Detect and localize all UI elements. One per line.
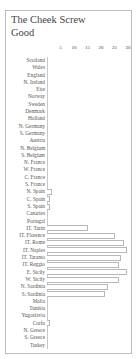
chart-row: S. Greece xyxy=(0,334,136,341)
category-label: S. France xyxy=(25,181,45,188)
x-tick-label: 10 xyxy=(72,44,77,51)
chart-row: Tunisia xyxy=(0,305,136,312)
chart-row: Canaries xyxy=(0,210,136,217)
chart-row: Austria xyxy=(0,137,136,144)
category-label: C. Spain xyxy=(27,196,45,203)
chart-row: N. Belgium xyxy=(0,145,136,152)
chart-row: E. Sicily xyxy=(0,269,136,276)
chart-row: Sweden xyxy=(0,101,136,108)
bar xyxy=(47,262,119,268)
x-tick-label: 30 xyxy=(126,44,131,51)
chart-row: IT. Taranto xyxy=(0,254,136,261)
category-label: Holland xyxy=(28,115,45,122)
chart-row: Turkey xyxy=(0,342,136,349)
chart-row: England xyxy=(0,72,136,79)
category-label: S. Greece xyxy=(24,334,45,341)
category-label: N. Spain xyxy=(26,188,45,195)
x-tick-label: 5 xyxy=(59,44,62,51)
category-label: Norway xyxy=(28,93,45,100)
chart-row: IT. Rome xyxy=(0,239,136,246)
category-label: S. Belgium xyxy=(21,152,45,159)
category-label: Malta xyxy=(33,298,45,305)
chart-row: Corfu xyxy=(0,320,136,327)
category-label: IT. Turin xyxy=(26,225,45,232)
category-label: IT. Rome xyxy=(25,239,45,246)
x-tick-label: 20 xyxy=(99,44,104,51)
category-label: Scotland xyxy=(26,57,45,64)
chart-row: Scotland xyxy=(0,57,136,64)
category-label: Tunisia xyxy=(29,305,45,312)
x-axis: 51015202530 xyxy=(47,44,132,52)
bar xyxy=(47,233,115,239)
category-label: S. Spain xyxy=(27,203,45,210)
chart-row: Yugoslavia xyxy=(0,312,136,319)
chart-row: S. Germany xyxy=(0,130,136,137)
category-label: IT. Florence xyxy=(19,232,45,239)
category-label: W. France xyxy=(23,166,45,173)
chart-row: IT. Reggio xyxy=(0,261,136,268)
category-label: Yugoslavia xyxy=(21,312,45,319)
category-label: S. Germany xyxy=(20,130,45,137)
bar xyxy=(47,284,108,290)
chart-row: Portugal xyxy=(0,218,136,225)
category-label: IT. Naples xyxy=(23,247,45,254)
category-label: Denmark xyxy=(25,108,45,115)
chart-row: S. France xyxy=(0,181,136,188)
category-label: N. France xyxy=(24,159,45,166)
category-label: Canaries xyxy=(26,210,45,217)
chart-row: W. France xyxy=(0,166,136,173)
chart-row: N. Ireland xyxy=(0,79,136,86)
category-label: IT. Reggio xyxy=(22,261,45,268)
chart-row: Holland xyxy=(0,115,136,122)
bar xyxy=(47,247,127,253)
bar xyxy=(47,277,119,283)
bar xyxy=(47,255,121,261)
bar xyxy=(47,269,127,275)
x-tick-label: 25 xyxy=(112,44,117,51)
bar-rows: ScotlandWalesEnglandN. IrelandEireNorway… xyxy=(0,57,136,349)
chart-row: N. Sardinia xyxy=(0,283,136,290)
category-label: Wales xyxy=(32,64,45,71)
chart-row: Malta xyxy=(0,298,136,305)
chart-row: Eire xyxy=(0,86,136,93)
chart-row: Denmark xyxy=(0,108,136,115)
category-label: Austria xyxy=(29,137,45,144)
chart-row: IT. Florence xyxy=(0,232,136,239)
category-label: S. Sardinia xyxy=(22,291,45,298)
category-label: Corfu xyxy=(33,320,45,327)
category-label: Eire xyxy=(36,86,45,93)
category-label: N. Sardinia xyxy=(21,283,45,290)
category-label: Sweden xyxy=(28,101,45,108)
chart-row: N. Spain xyxy=(0,188,136,195)
chart-row: W. Sicily xyxy=(0,276,136,283)
category-label: N. Belgium xyxy=(20,145,45,152)
chart-row: S. Sardinia xyxy=(0,291,136,298)
category-label: E. Sicily xyxy=(27,269,45,276)
bar xyxy=(47,291,105,297)
chart-row: IT. Turin xyxy=(0,225,136,232)
bar xyxy=(47,240,124,246)
chart-row: Wales xyxy=(0,64,136,71)
category-label: C. France xyxy=(24,174,45,181)
category-label: IT. Taranto xyxy=(22,254,45,261)
chart-title: The Cheek Screw Good xyxy=(11,13,121,39)
chart-row: S. Spain xyxy=(0,203,136,210)
bar xyxy=(47,204,50,210)
x-tick-label: 15 xyxy=(85,44,90,51)
chart-row: IT. Naples xyxy=(0,247,136,254)
category-label: W. Sicily xyxy=(25,276,45,283)
category-label: N. Greece xyxy=(24,327,45,334)
bar xyxy=(47,320,50,326)
chart-row: N. France xyxy=(0,159,136,166)
category-label: N. Ireland xyxy=(24,79,45,86)
chart-row: S. Belgium xyxy=(0,152,136,159)
title-line-2: Good xyxy=(11,26,121,39)
chart-row: Norway xyxy=(0,93,136,100)
chart-row: C. France xyxy=(0,174,136,181)
category-label: Turkey xyxy=(30,342,45,349)
bar xyxy=(47,225,88,231)
category-label: England xyxy=(27,72,45,79)
category-label: Portugal xyxy=(27,218,45,225)
bar xyxy=(47,196,50,202)
bar xyxy=(47,189,52,195)
